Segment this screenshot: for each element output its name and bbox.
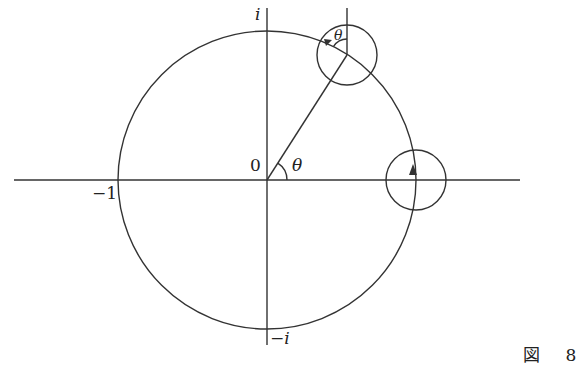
radius-line <box>267 55 347 180</box>
label-angle-origin: θ <box>292 157 302 174</box>
angle-arc-origin <box>278 163 287 180</box>
label-imag-neg: −i <box>270 330 290 347</box>
label-imag-pos: i <box>255 6 260 23</box>
label-real-neg: −1 <box>92 185 117 202</box>
label-origin: 0 <box>250 157 261 174</box>
figure-caption: 図 8 <box>523 341 580 366</box>
arrow-icon <box>324 39 417 175</box>
label-angle-top: θ <box>334 28 342 42</box>
